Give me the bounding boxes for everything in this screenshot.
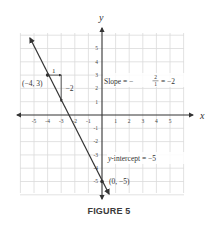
slope-fraction-den: 1 — [154, 81, 157, 87]
svg-text:4: 4 — [95, 59, 98, 65]
run-label: 1 — [52, 67, 56, 75]
svg-text:-5: -5 — [93, 178, 98, 184]
figure-graph: x y -5 -4 -3 -2 -1 1 2 3 4 5 5 4 3 2 1 -… — [0, 0, 218, 227]
svg-text:4: 4 — [155, 118, 158, 124]
point-label-0-neg5: (0, −5) — [109, 177, 130, 186]
svg-text:2: 2 — [128, 118, 131, 124]
figure-caption: FIGURE 5 — [0, 206, 218, 216]
svg-text:1: 1 — [114, 118, 117, 124]
svg-text:-1: -1 — [86, 118, 91, 124]
x-axis-label: x — [199, 110, 205, 121]
point-0-neg5 — [100, 180, 104, 184]
svg-text:3: 3 — [141, 118, 144, 124]
svg-text:1: 1 — [95, 99, 98, 105]
svg-text:-3: -3 — [59, 118, 64, 124]
svg-text:-4: -4 — [45, 118, 50, 124]
svg-text:-5: -5 — [32, 118, 37, 124]
svg-text:-2: -2 — [93, 138, 98, 144]
intercept-annotation: y-intercept = −5 — [107, 154, 156, 163]
svg-text:5: 5 — [169, 118, 172, 124]
slope-result: = −2 — [161, 77, 175, 86]
svg-text:-1: -1 — [93, 125, 98, 131]
svg-text:-3: -3 — [93, 152, 98, 158]
y-axis-label: y — [98, 12, 104, 23]
slope-annotation: Slope = − — [104, 77, 133, 86]
point-label-neg4-3: (−4, 3) — [22, 79, 43, 88]
svg-text:3: 3 — [95, 72, 98, 78]
slope-fraction-num: 2 — [154, 74, 157, 80]
rise-label: −2 — [66, 84, 74, 93]
svg-text:2: 2 — [95, 85, 98, 91]
svg-text:5: 5 — [95, 45, 98, 51]
